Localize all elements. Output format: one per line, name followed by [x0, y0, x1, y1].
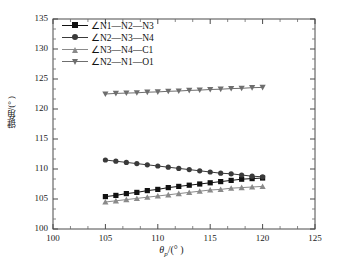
- x-tick-label: 105: [90, 233, 120, 243]
- x-tick-label: 115: [195, 233, 225, 243]
- data-point-marker: [218, 179, 223, 184]
- data-point-marker: [134, 190, 139, 195]
- x-axis-title-unit: /(° ): [168, 244, 184, 255]
- y-tick-label: 135: [22, 13, 48, 23]
- x-tick-label: 120: [248, 233, 278, 243]
- legend-label: ∠N2—N3—N4: [88, 32, 154, 43]
- data-point-marker: [155, 187, 160, 192]
- data-point-marker: [124, 191, 129, 196]
- legend-label: ∠N1—N2—N3: [88, 20, 154, 31]
- data-point-marker: [134, 161, 139, 166]
- legend-label: ∠N3—N4—C1: [88, 44, 153, 55]
- data-point-marker: [103, 194, 108, 199]
- data-point-marker: [176, 166, 181, 171]
- data-point-marker: [197, 181, 202, 186]
- data-point-marker: [103, 157, 108, 162]
- data-point-marker: [218, 171, 223, 176]
- data-point-marker: [187, 183, 192, 188]
- data-point-marker: [145, 188, 150, 193]
- chart-canvas: [0, 0, 343, 270]
- y-tick-label: 110: [22, 163, 48, 173]
- data-point-marker: [229, 178, 234, 183]
- y-tick-label: 125: [22, 73, 48, 83]
- y-tick-label: 115: [22, 133, 48, 143]
- series-line: [105, 160, 262, 177]
- legend-symbol: [62, 32, 88, 43]
- legend-item-1[interactable]: ∠N1—N2—N3: [62, 20, 154, 31]
- y-tick-label: 120: [22, 103, 48, 113]
- y-tick-label: 100: [22, 223, 48, 233]
- x-tick-label: 110: [143, 233, 173, 243]
- data-point-marker: [155, 163, 160, 168]
- y-tick-label: 105: [22, 193, 48, 203]
- data-point-marker: [208, 180, 213, 185]
- data-point-marker: [166, 165, 171, 170]
- data-point-marker: [229, 171, 234, 176]
- legend-label: ∠N2—N1—O1: [88, 56, 154, 67]
- triangle-up-marker-icon: [72, 47, 78, 53]
- data-point-marker: [124, 160, 129, 165]
- data-point-marker: [208, 169, 213, 174]
- data-point-marker: [176, 184, 181, 189]
- data-point-marker: [250, 174, 255, 179]
- x-tick-label: 125: [300, 233, 330, 243]
- legend-symbol: [62, 56, 88, 67]
- data-point-marker: [187, 167, 192, 172]
- data-point-marker: [197, 168, 202, 173]
- bond-angle-line-chart: 100105110115120125130135 100105110115120…: [0, 0, 343, 270]
- legend-symbol: [62, 20, 88, 31]
- data-point-marker: [113, 193, 118, 198]
- data-point-marker: [145, 162, 150, 167]
- triangle-down-marker-icon: [72, 59, 78, 65]
- legend: ∠N1—N2—N3∠N2—N3—N4∠N3—N4—C1∠N2—N1—O1: [62, 20, 154, 67]
- series-4: [102, 85, 265, 97]
- legend-item-2[interactable]: ∠N2—N3—N4: [62, 32, 154, 43]
- series-line: [105, 186, 262, 202]
- y-axis-title: 键角/(° ): [4, 96, 18, 128]
- circle-marker-icon: [72, 34, 78, 40]
- legend-symbol: [62, 44, 88, 55]
- x-tick-label: 100: [38, 233, 68, 243]
- x-axis-title: θp/(° ): [0, 244, 343, 258]
- data-point-marker: [113, 159, 118, 164]
- legend-item-3[interactable]: ∠N3—N4—C1: [62, 44, 154, 55]
- y-tick-label: 130: [22, 43, 48, 53]
- data-point-marker: [260, 174, 265, 179]
- data-point-marker: [166, 185, 171, 190]
- square-marker-icon: [72, 22, 78, 28]
- data-point-marker: [239, 172, 244, 177]
- series-2: [103, 157, 265, 179]
- legend-item-4[interactable]: ∠N2—N1—O1: [62, 56, 154, 67]
